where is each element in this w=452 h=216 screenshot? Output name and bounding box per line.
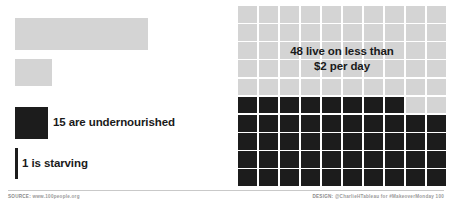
- waffle-cell: [301, 169, 320, 186]
- infographic-canvas: 15 are undernourished 1 is starving 48 l…: [0, 0, 452, 216]
- waffle-cell: [238, 24, 257, 41]
- waffle-cell: [301, 79, 320, 96]
- waffle-cell: [322, 151, 341, 168]
- waffle-cell: [238, 151, 257, 168]
- waffle-cell: [301, 115, 320, 132]
- waffle-cell: [427, 115, 446, 132]
- waffle-cell: [280, 79, 299, 96]
- waffle-cell: [322, 97, 341, 114]
- waffle-cell: [364, 97, 383, 114]
- waffle-cell: [427, 133, 446, 150]
- waffle-cell: [385, 24, 404, 41]
- footer-source: SOURCE: www.100people.org: [8, 194, 80, 199]
- waffle-cell: [427, 60, 446, 77]
- waffle-cell: [364, 6, 383, 23]
- waffle-cell: [301, 97, 320, 114]
- waffle-cell: [385, 115, 404, 132]
- waffle-cell: [238, 6, 257, 23]
- waffle-cell: [301, 151, 320, 168]
- waffle-cell: [238, 115, 257, 132]
- waffle-cell: [406, 79, 425, 96]
- waffle-cell: [301, 24, 320, 41]
- footer-design: DESIGN: @CharlieHTableau for #MakeoverMo…: [312, 194, 444, 199]
- waffle-cell: [427, 42, 446, 59]
- waffle-cell: [280, 24, 299, 41]
- waffle-cell: [343, 42, 362, 59]
- waffle-cell: [406, 169, 425, 186]
- waffle-cell: [259, 6, 278, 23]
- waffle-cell: [427, 24, 446, 41]
- waffle-cell: [301, 6, 320, 23]
- waffle-cell: [280, 115, 299, 132]
- waffle-cell: [322, 42, 341, 59]
- footer: SOURCE: www.100people.org DESIGN: @Charl…: [8, 194, 444, 199]
- label-undernourished: 15 are undernourished: [53, 116, 175, 128]
- waffle-cell: [238, 79, 257, 96]
- waffle-cell: [322, 169, 341, 186]
- footer-design-value: @CharlieHTableau for #MakeoverMonday 100: [335, 194, 444, 199]
- waffle-cell: [343, 133, 362, 150]
- waffle-cell: [427, 169, 446, 186]
- waffle-cell: [280, 6, 299, 23]
- waffle-chart-panel: 48 live on less than $2 per day: [238, 6, 446, 186]
- bar-live-on-less-than-2: [15, 59, 52, 86]
- waffle-cell: [343, 169, 362, 186]
- waffle-grid: [238, 6, 446, 186]
- waffle-cell: [343, 151, 362, 168]
- waffle-cell: [406, 115, 425, 132]
- waffle-cell: [385, 169, 404, 186]
- waffle-cell: [238, 169, 257, 186]
- waffle-cell: [385, 151, 404, 168]
- waffle-cell: [406, 60, 425, 77]
- waffle-cell: [427, 151, 446, 168]
- waffle-cell: [322, 60, 341, 77]
- label-starving: 1 is starving: [22, 157, 88, 169]
- waffle-cell: [322, 6, 341, 23]
- waffle-cell: [280, 42, 299, 59]
- waffle-cell: [364, 133, 383, 150]
- waffle-cell: [280, 133, 299, 150]
- waffle-cell: [259, 133, 278, 150]
- waffle-cell: [427, 79, 446, 96]
- waffle-cell: [301, 133, 320, 150]
- waffle-cell: [301, 42, 320, 59]
- waffle-cell: [280, 60, 299, 77]
- waffle-cell: [364, 169, 383, 186]
- waffle-cell: [364, 79, 383, 96]
- nested-bar-panel: 15 are undernourished 1 is starving: [0, 0, 232, 190]
- waffle-cell: [406, 24, 425, 41]
- footer-source-value: www.100people.org: [32, 194, 79, 199]
- waffle-cell: [385, 133, 404, 150]
- bar-undernourished: [15, 107, 48, 139]
- waffle-cell: [343, 24, 362, 41]
- waffle-cell: [322, 24, 341, 41]
- footer-divider: [8, 190, 444, 191]
- waffle-cell: [259, 97, 278, 114]
- waffle-cell: [259, 79, 278, 96]
- waffle-cell: [301, 60, 320, 77]
- bar-starving: [15, 148, 18, 179]
- waffle-cell: [364, 42, 383, 59]
- waffle-cell: [259, 24, 278, 41]
- waffle-cell: [385, 42, 404, 59]
- footer-source-key: SOURCE:: [8, 194, 31, 199]
- waffle-cell: [343, 79, 362, 96]
- waffle-cell: [280, 97, 299, 114]
- waffle-cell: [238, 133, 257, 150]
- waffle-cell: [280, 151, 299, 168]
- waffle-cell: [406, 6, 425, 23]
- waffle-cell: [406, 133, 425, 150]
- waffle-cell: [343, 115, 362, 132]
- waffle-cell: [343, 6, 362, 23]
- waffle-cell: [259, 169, 278, 186]
- waffle-cell: [364, 151, 383, 168]
- waffle-cell: [385, 6, 404, 23]
- waffle-cell: [322, 133, 341, 150]
- footer-design-key: DESIGN:: [312, 194, 333, 199]
- bar-total-population: [15, 18, 148, 50]
- waffle-cell: [364, 60, 383, 77]
- waffle-cell: [427, 97, 446, 114]
- waffle-cell: [364, 24, 383, 41]
- waffle-cell: [322, 115, 341, 132]
- waffle-cell: [343, 60, 362, 77]
